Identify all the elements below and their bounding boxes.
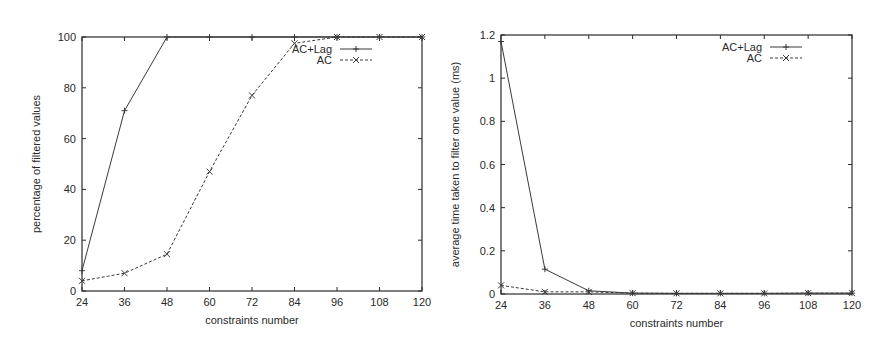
x-tick-label: 60 xyxy=(627,299,639,311)
legend-label: AC xyxy=(317,54,332,66)
y-tick-label: 0.4 xyxy=(480,202,495,214)
y-tick-label: 80 xyxy=(64,82,76,94)
x-tick-label: 84 xyxy=(714,299,726,311)
y-tick-label: 0.8 xyxy=(480,115,495,127)
x-tick-label: 120 xyxy=(843,299,861,311)
series-line xyxy=(82,37,422,271)
x-tick-label: 60 xyxy=(203,296,215,308)
x-axis-label: constraints number xyxy=(630,317,724,329)
x-tick-label: 36 xyxy=(539,299,551,311)
y-axis-label: average time taken to filter one value (… xyxy=(449,62,461,267)
legend-label: AC xyxy=(747,52,762,64)
y-tick-label: 20 xyxy=(64,234,76,246)
x-tick-label: 48 xyxy=(161,296,173,308)
y-axis-label: percentage of filtered values xyxy=(30,94,42,233)
series-ac xyxy=(79,34,425,284)
legend: AC+LagAC xyxy=(722,41,802,64)
series-line xyxy=(501,41,852,293)
x-tick-label: 120 xyxy=(413,296,431,308)
y-tick-label: 0 xyxy=(489,288,495,300)
charts-canvas: 24364860728496108120020406080100constrai… xyxy=(0,0,891,342)
series-line xyxy=(82,37,422,281)
x-tick-label: 36 xyxy=(118,296,130,308)
x-axis-label: constraints number xyxy=(205,314,299,326)
time-chart: 2436486072849610812000.20.40.60.811.2con… xyxy=(449,29,861,329)
x-tick-label: 48 xyxy=(583,299,595,311)
plot-frame xyxy=(82,37,422,291)
y-tick-label: 1 xyxy=(489,72,495,84)
legend: AC+LagAC xyxy=(292,43,372,66)
y-tick-label: 60 xyxy=(64,133,76,145)
y-tick-label: 0.6 xyxy=(480,159,495,171)
filtered-values-chart: 24364860728496108120020406080100constrai… xyxy=(0,0,891,342)
percentage-chart: 24364860728496108120020406080100constrai… xyxy=(30,31,431,326)
x-tick-label: 72 xyxy=(246,296,258,308)
y-tick-label: 40 xyxy=(64,183,76,195)
x-tick-label: 96 xyxy=(758,299,770,311)
x-tick-label: 108 xyxy=(799,299,817,311)
series-ac-lag xyxy=(79,34,425,274)
x-tick-label: 24 xyxy=(495,299,507,311)
x-tick-label: 72 xyxy=(670,299,682,311)
x-tick-label: 84 xyxy=(288,296,300,308)
x-tick-label: 24 xyxy=(76,296,88,308)
x-tick-label: 96 xyxy=(331,296,343,308)
series-ac-lag xyxy=(498,38,855,296)
x-tick-label: 108 xyxy=(370,296,388,308)
plot-frame xyxy=(501,35,852,294)
y-tick-label: 0.2 xyxy=(480,245,495,257)
y-tick-label: 100 xyxy=(58,31,76,43)
y-tick-label: 0 xyxy=(70,285,76,297)
y-tick-label: 1.2 xyxy=(480,29,495,41)
